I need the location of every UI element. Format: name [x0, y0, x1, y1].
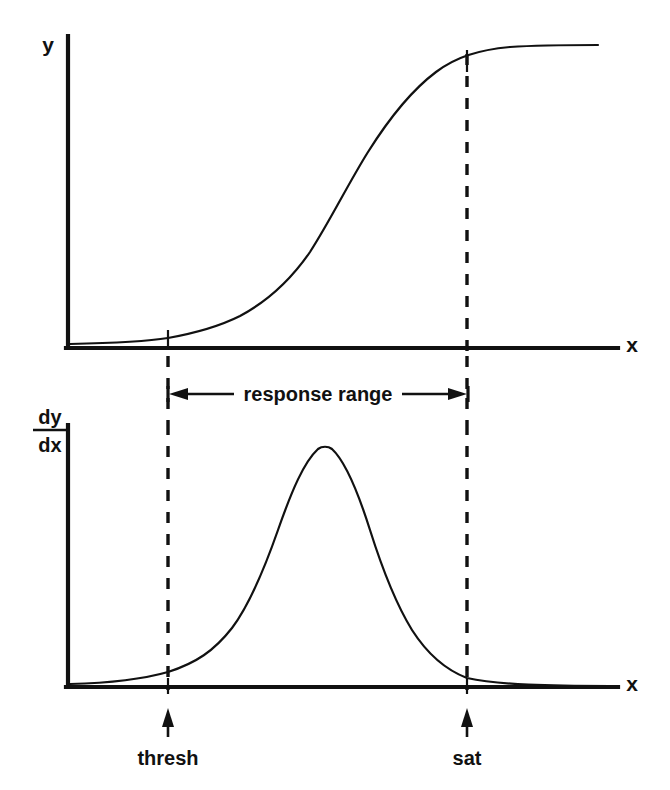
bottom-y-axis-label: dy dx	[33, 406, 67, 456]
bottom-x-axis-label: x	[626, 672, 638, 695]
right-arrowhead-icon	[448, 388, 467, 400]
derivative-curve	[70, 447, 610, 686]
response-range-annotation: response range	[168, 356, 468, 424]
bottom-y-axis-denominator: dx	[38, 434, 61, 456]
sigmoid-curve	[70, 45, 598, 344]
up-arrowhead-icon	[461, 708, 473, 727]
figure-root: y x response range	[0, 0, 670, 790]
top-y-axis-label: y	[42, 33, 54, 56]
thresh-label: thresh	[137, 747, 198, 769]
bottom-panel: dy dx x	[33, 406, 638, 695]
up-arrowhead-icon	[162, 708, 174, 727]
sat-label: sat	[453, 747, 482, 769]
bottom-y-axis-numerator: dy	[38, 406, 62, 428]
diagram-canvas: y x response range	[0, 0, 670, 790]
response-range-label: response range	[244, 383, 393, 405]
top-panel: y x	[42, 33, 638, 356]
saturation-marker: sat	[453, 708, 482, 769]
top-x-axis-label: x	[626, 333, 638, 356]
threshold-marker: thresh	[137, 708, 198, 769]
left-arrowhead-icon	[169, 388, 188, 400]
